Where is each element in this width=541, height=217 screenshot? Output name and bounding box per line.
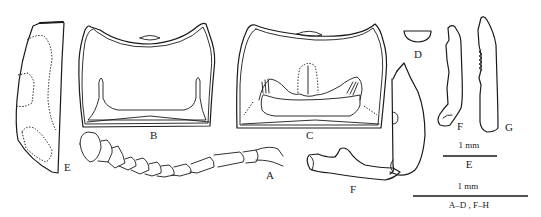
scale-bar-e: 1 mm E (443, 140, 497, 170)
figure-d-plate (404, 31, 431, 42)
scale-bar-a-d-f-h: 1 mm A–D , F–H (413, 181, 528, 210)
figure-a-antenna (80, 132, 283, 177)
scale-bar-e-length: 1 mm (459, 140, 480, 150)
label-a: A (266, 169, 274, 181)
label-g: F (457, 120, 463, 132)
figure-e-elytron (16, 22, 64, 173)
label-c: C (306, 129, 313, 141)
label-h: G (505, 121, 513, 133)
label-f: F (350, 183, 356, 195)
plate-svg: E B C D F (0, 0, 541, 217)
figure-c-sclerite (237, 24, 387, 128)
figure-h-paramere (478, 17, 498, 132)
figure-b-sclerite (79, 23, 215, 127)
illustration-plate: E B C D F (0, 0, 541, 217)
figure-g-paramere (438, 26, 462, 126)
scale-bar-e-target: E (466, 158, 473, 170)
label-b: B (150, 129, 157, 141)
scale-bar-main-target: A–D , F–H (449, 200, 490, 210)
scale-bar-main-length: 1 mm (458, 181, 479, 191)
label-d: D (414, 48, 422, 60)
label-e: E (64, 161, 71, 173)
figure-f-genitalia (307, 63, 425, 180)
